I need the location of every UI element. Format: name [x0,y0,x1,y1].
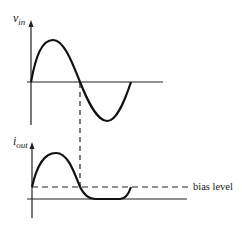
iout-curve [32,153,131,199]
iout-y-axis-arrow-icon [30,142,35,149]
vin-label: vin [13,11,26,27]
iout-plot: iout bias level [13,134,233,218]
vin-plot: vin [13,11,163,125]
vin-sine-curve [31,40,131,121]
iout-label: iout [13,134,28,150]
amplifier-waveform-diagram: vin iout bias level [0,0,242,228]
vin-y-axis-arrow-icon [29,20,34,27]
bias-level-label: bias level [193,181,233,192]
